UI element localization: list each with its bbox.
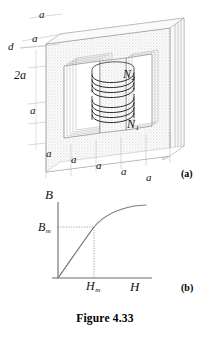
laminated-core-diagram: a a d 2a a a a a a a N2 N1 (a) xyxy=(0,0,210,190)
dimension-label-width-2: a xyxy=(71,154,77,165)
winding-label-n2: N2 xyxy=(123,68,135,82)
dimension-label-width-1: a xyxy=(46,148,52,159)
winding-label-n1: N1 xyxy=(127,118,139,132)
dimension-label-window-height: 2a xyxy=(14,69,26,81)
dimension-label-top-outer: a xyxy=(39,9,45,20)
winding-label-n2-letter: N xyxy=(123,67,131,81)
x-axis-title: H xyxy=(130,280,139,293)
winding-label-n1-letter: N xyxy=(127,117,135,131)
y-axis-title: B xyxy=(45,188,53,201)
core-window-left xyxy=(64,61,100,138)
bh-curve-chart: B Bm Hm H (b) xyxy=(0,188,210,298)
winding-label-n2-subscript: 2 xyxy=(131,74,135,82)
magnetization-curve xyxy=(58,205,146,278)
x-tick-label-hm-letter: H xyxy=(86,279,95,293)
bh-curve-svg xyxy=(0,188,210,298)
y-tick-label-bm-subscript: m xyxy=(45,227,51,235)
dimension-label-width-3: a xyxy=(96,160,102,171)
dimension-label-bottom-yoke: a xyxy=(30,105,36,116)
x-tick-label-hm: Hm xyxy=(86,280,100,294)
part-label-a: (a) xyxy=(181,168,193,179)
dimension-label-width-4: a xyxy=(121,166,127,177)
dimension-label-thickness-d: d xyxy=(8,41,14,52)
figure-caption: Figure 4.33 xyxy=(0,312,210,324)
dimension-label-width-5: a xyxy=(146,172,152,183)
winding-label-n1-subscript: 1 xyxy=(135,124,139,132)
y-tick-label-bm: Bm xyxy=(38,221,51,235)
x-tick-label-hm-subscript: m xyxy=(95,286,101,294)
dimension-label-top-inner: a xyxy=(32,33,38,44)
core-svg xyxy=(0,0,210,190)
figure-4-33: a a d 2a a a a a a a N2 N1 (a) xyxy=(0,0,210,344)
part-label-b: (b) xyxy=(181,282,193,293)
